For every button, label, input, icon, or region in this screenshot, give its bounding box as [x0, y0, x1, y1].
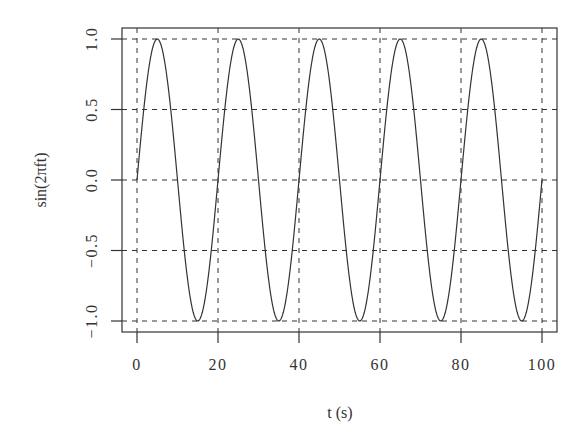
sine-curve [137, 39, 542, 321]
y-tick-label: −1.0 [83, 303, 100, 338]
x-tick-label: 60 [371, 356, 390, 373]
x-tick-label: 0 [132, 356, 142, 373]
sine-wave-chart: 020406080100 −1.0−0.50.00.51.0 t (s) sin… [0, 0, 584, 447]
x-tick-label: 20 [209, 356, 228, 373]
x-tick-label: 80 [452, 356, 471, 373]
y-tick-label: 1.0 [83, 27, 100, 52]
y-tick-label: 0.5 [83, 97, 100, 122]
x-tick-label: 100 [528, 356, 557, 373]
x-tick-label: 40 [290, 356, 309, 373]
y-axis: −1.0−0.50.00.51.0 [83, 27, 122, 339]
y-tick-label: −0.5 [83, 233, 100, 268]
x-axis-label: t (s) [327, 404, 352, 422]
x-axis: 020406080100 [132, 332, 556, 373]
y-axis-label: sin(2πft) [32, 152, 50, 207]
y-tick-label: 0.0 [83, 168, 100, 193]
